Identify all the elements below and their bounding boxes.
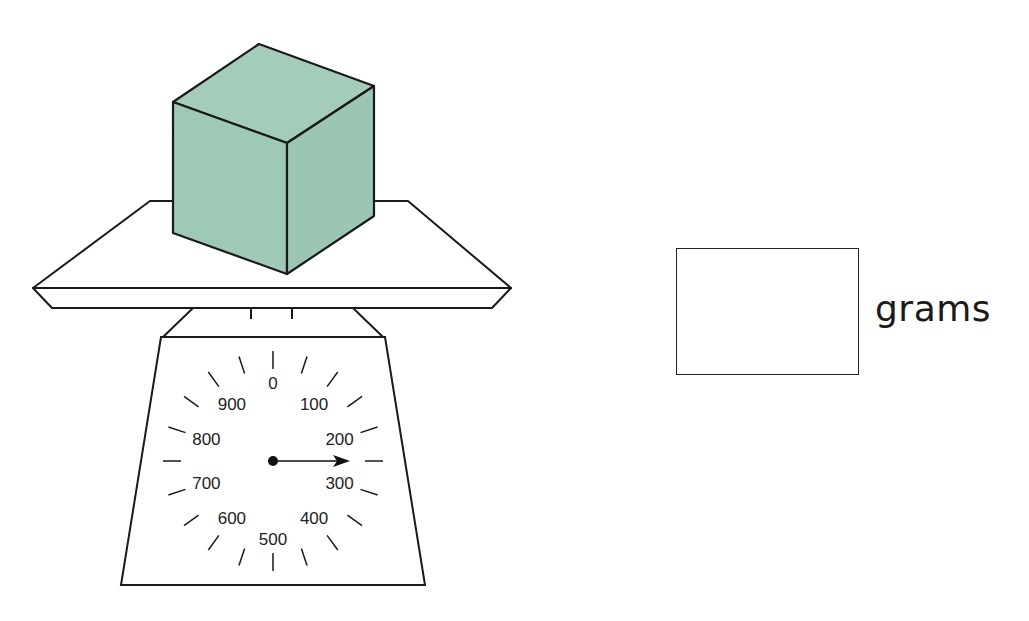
unit-label: grams — [875, 288, 991, 329]
dial-label-800: 800 — [192, 430, 220, 449]
dial-label-500: 500 — [259, 530, 287, 549]
scale-neck — [163, 308, 383, 337]
answer-input-box[interactable] — [676, 248, 859, 375]
dial-label-600: 600 — [218, 509, 246, 528]
dial-label-100: 100 — [300, 395, 328, 414]
dial-label-300: 300 — [325, 474, 353, 493]
dial-label-700: 700 — [192, 474, 220, 493]
dial-label-400: 400 — [300, 509, 328, 528]
dial-label-200: 200 — [325, 430, 353, 449]
dial-label-0: 0 — [268, 374, 277, 393]
dial-label-900: 900 — [218, 395, 246, 414]
